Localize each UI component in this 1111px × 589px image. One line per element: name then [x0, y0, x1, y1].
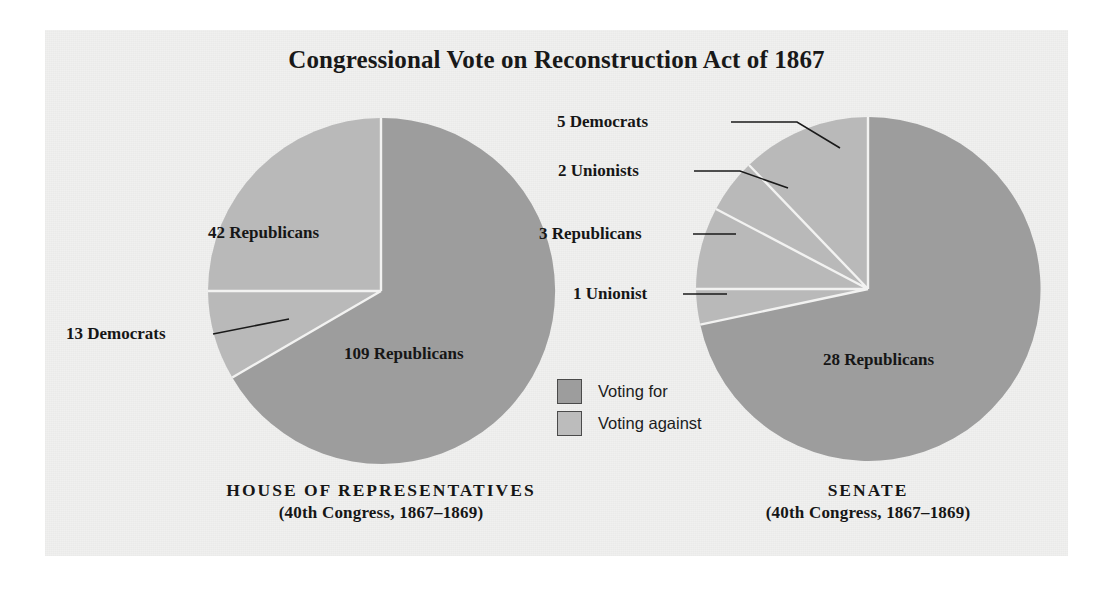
legend-label-voting-against: Voting against — [598, 414, 702, 433]
senate-caption-sub: (40th Congress, 1867–1869) — [700, 503, 1036, 523]
legend-item-voting-for[interactable]: Voting for — [557, 375, 702, 407]
house-pie — [208, 118, 555, 464]
senate-label-1-unionist: 1 Unionist — [573, 284, 647, 304]
senate-pie — [683, 117, 1041, 461]
legend-item-voting-against[interactable]: Voting against — [557, 407, 702, 439]
house-caption: HOUSE OF REPRESENTATIVES (40th Congress,… — [181, 480, 581, 523]
senate-label-5-democrats: 5 Democrats — [557, 112, 648, 132]
senate-caption: SENATE (40th Congress, 1867–1869) — [700, 480, 1036, 523]
senate-label-3-republicans: 3 Republicans — [539, 224, 642, 244]
senate-label-2-unionists: 2 Unionists — [558, 161, 639, 181]
house-slice-42-republicans[interactable] — [208, 118, 381, 291]
house-caption-main: HOUSE OF REPRESENTATIVES — [181, 480, 581, 501]
legend: Voting for Voting against — [557, 375, 702, 439]
figure-root: Congressional Vote on Reconstruction Act… — [0, 0, 1111, 589]
senate-caption-main: SENATE — [700, 480, 1036, 501]
legend-swatch-voting-against-icon — [557, 411, 582, 436]
legend-swatch-voting-for-icon — [557, 379, 582, 404]
house-caption-sub: (40th Congress, 1867–1869) — [181, 503, 581, 523]
house-label-42-republicans: 42 Republicans — [208, 223, 319, 243]
house-label-13-democrats: 13 Democrats — [66, 324, 166, 344]
legend-label-voting-for: Voting for — [598, 382, 668, 401]
house-label-109-republicans: 109 Republicans — [344, 344, 464, 364]
senate-label-28-republicans: 28 Republicans — [823, 350, 934, 370]
